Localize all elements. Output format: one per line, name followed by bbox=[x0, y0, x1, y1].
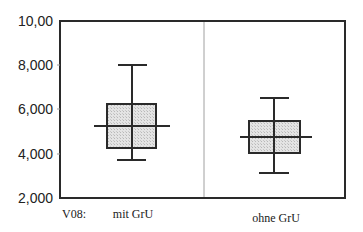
y-tick-label: 8,000 bbox=[18, 57, 53, 73]
y-tick-label: 4,000 bbox=[18, 146, 53, 162]
y-tick-label: 2,000 bbox=[18, 190, 53, 206]
box-ohne-gru bbox=[240, 98, 312, 173]
category-label-ohne-gru: ohne GrU bbox=[252, 211, 300, 225]
box-plot-chart: 10,00 8,000 6,000 4,000 2,000 V08: mit G… bbox=[0, 0, 363, 232]
prefix-label: V08: bbox=[62, 207, 86, 221]
y-axis: 10,00 8,000 6,000 4,000 2,000 bbox=[18, 13, 60, 206]
box-mit-gru bbox=[94, 65, 170, 160]
y-tick-label: 6,000 bbox=[18, 101, 53, 117]
plot-frame bbox=[60, 21, 345, 198]
category-label-mit-gru: mit GrU bbox=[113, 207, 154, 221]
y-tick-label: 10,00 bbox=[18, 13, 53, 29]
